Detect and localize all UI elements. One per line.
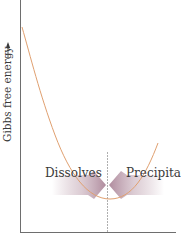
y-axis-label: Gibbs free energy — [1, 46, 13, 142]
gibbs-free-energy-diagram: Dissolves Precipitates Gibbs free energy — [0, 0, 181, 238]
precipitates-label: Precipitates — [126, 166, 181, 180]
dissolves-label: Dissolves — [45, 166, 102, 180]
